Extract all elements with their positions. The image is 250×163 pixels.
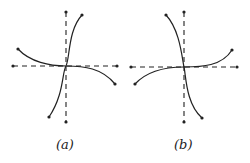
axis-endpoint: [64, 120, 67, 123]
panel-a: [11, 10, 118, 123]
panel-b-label: (b): [174, 137, 192, 152]
axis-endpoint: [235, 65, 238, 68]
curve-endpoint: [16, 47, 19, 50]
axis-endpoint: [182, 120, 185, 123]
axis-endpoint: [64, 10, 67, 13]
curve-endpoint: [164, 13, 167, 16]
axis-endpoint: [11, 64, 14, 67]
curve-endpoint: [113, 82, 116, 85]
curve-endpoint: [133, 82, 136, 85]
panel-a-label: (a): [56, 137, 74, 152]
curve-endpoint: [230, 48, 233, 51]
diagram-canvas: [0, 0, 250, 163]
curve-endpoint: [200, 116, 203, 119]
panel-b: [129, 10, 238, 123]
curve-endpoint: [47, 115, 50, 118]
curve-endpoint: [80, 13, 83, 16]
axis-endpoint: [115, 64, 118, 67]
axis-endpoint: [129, 65, 132, 68]
axis-endpoint: [182, 10, 185, 13]
